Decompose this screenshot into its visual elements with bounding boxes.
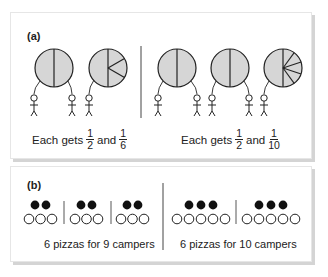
camper-icon (208, 95, 216, 116)
fraction-one-half: 1 2 (235, 128, 243, 151)
pizza-halves (35, 49, 73, 87)
pizza-group (255, 201, 288, 210)
caption-text: and (97, 134, 116, 146)
camper-icon (85, 95, 93, 116)
camper-icon (68, 95, 76, 116)
caption-right-b: 6 pizzas for 10 campers (180, 238, 297, 250)
caption-left-b: 6 pizzas for 9 campers (44, 238, 155, 250)
fraction-one-sixth: 1 6 (119, 128, 127, 151)
caption-text: Each gets (32, 134, 83, 146)
camper-group (172, 214, 230, 224)
pizza-half-and-tenths (264, 49, 302, 87)
camper-icon (193, 95, 201, 116)
camper-icon (260, 95, 268, 116)
pizza-group (185, 201, 218, 210)
caption-left-a: Each gets 1 2 and 1 6 (32, 128, 130, 151)
caption-text: and (246, 134, 265, 146)
camper-group (242, 214, 300, 224)
pizza-halves (211, 49, 249, 87)
pizza-group (31, 201, 51, 210)
pizza-halves (158, 49, 196, 87)
pizza-half-and-sixths (89, 49, 127, 87)
pizza-group (123, 201, 143, 210)
camper-group (116, 214, 149, 224)
fraction-one-tenth: 1 10 (268, 128, 280, 151)
fraction-one-half: 1 2 (86, 128, 94, 151)
camper-group (24, 214, 57, 224)
camper-group (70, 214, 103, 224)
pizza-group (77, 201, 97, 210)
camper-icon (154, 95, 162, 116)
camper-icon (30, 95, 38, 116)
caption-text: Each gets (181, 134, 232, 146)
camper-icon (245, 95, 253, 116)
caption-right-a: Each gets 1 2 and 1 10 (181, 128, 283, 151)
